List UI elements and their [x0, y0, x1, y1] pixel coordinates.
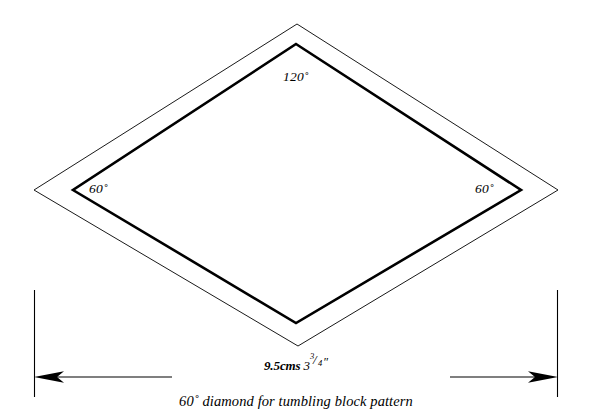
- angle-label-left: 60˚: [89, 182, 108, 196]
- fraction-slash: /: [313, 353, 317, 366]
- fraction-denominator: 4: [318, 359, 322, 368]
- dimension-arrow-right: [450, 371, 558, 383]
- diagram-root: 120˚ 60˚ 60˚ 9.5cms33/4″ 60˚ diamond for…: [0, 0, 592, 419]
- dimension-metric-value: 9.5cms: [264, 358, 301, 373]
- dimension-label: 9.5cms33/4″: [0, 356, 592, 372]
- angle-label-right: 60˚: [475, 182, 494, 196]
- dimension-arrow-left: [34, 371, 172, 383]
- angle-label-top: 120˚: [283, 70, 309, 84]
- imperial-fraction: 3/4: [310, 357, 323, 370]
- dimension-imperial-value: 33/4″: [304, 358, 329, 373]
- figure-caption: 60˚ diamond for tumbling block pattern: [0, 394, 592, 409]
- inch-mark: ″: [323, 355, 328, 369]
- inner-diamond-sewing-line: [73, 44, 521, 323]
